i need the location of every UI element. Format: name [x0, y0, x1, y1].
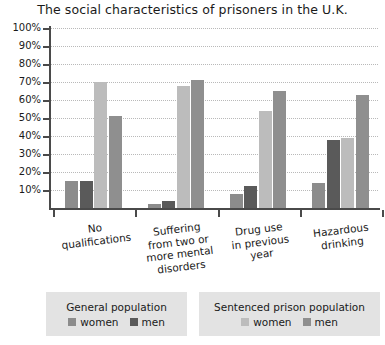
legend-label: women [80, 316, 118, 328]
y-tick-label: 80% [0, 58, 41, 69]
legend-swatch-icon [303, 318, 311, 326]
category-label: Drug use in previous year [215, 218, 305, 266]
bar [94, 82, 107, 208]
y-tick-label: 100% [0, 22, 41, 33]
chart-title: The social characteristics of prisoners … [0, 2, 385, 17]
bar [65, 181, 78, 208]
legend-item-women[interactable]: women [241, 316, 291, 328]
legend-label: women [253, 316, 291, 328]
bar [312, 183, 325, 208]
bar [148, 204, 161, 208]
bar [259, 111, 272, 208]
x-tick-mark [300, 210, 302, 217]
y-tick-label: 30% [0, 148, 41, 159]
x-tick-mark [382, 210, 384, 217]
y-tick-label: 50% [0, 112, 41, 123]
bar [162, 201, 175, 208]
bar [109, 116, 122, 208]
bar [244, 186, 257, 208]
bar [230, 194, 243, 208]
x-axis-line [49, 208, 380, 210]
legend-entries: womenmen [68, 316, 165, 328]
bar [327, 140, 340, 208]
bar [191, 80, 204, 208]
legend-item-men[interactable]: men [303, 316, 338, 328]
y-tick-label: 10% [0, 184, 41, 195]
legend-swatch-icon [68, 318, 76, 326]
y-tick-label: 60% [0, 94, 41, 105]
bars-layer [49, 28, 380, 208]
y-tick-label: 90% [0, 40, 41, 51]
legend-entries: womenmen [241, 316, 338, 328]
x-tick-mark [218, 210, 220, 217]
legend-label: men [142, 316, 165, 328]
legend-group: Sentenced prison populationwomenmen [199, 292, 380, 336]
bar [356, 95, 369, 208]
category-label: Suffering from two or more mental disord… [133, 217, 224, 277]
legend-swatch-icon [130, 318, 138, 326]
legend-swatch-icon [241, 318, 249, 326]
category-label: Hazardous drinking [298, 218, 385, 253]
x-tick-mark [53, 210, 55, 217]
chart-container: The social characteristics of prisoners … [0, 0, 385, 345]
y-tick-label: 70% [0, 76, 41, 87]
legend-item-women[interactable]: women [68, 316, 118, 328]
category-label: No qualifications [51, 217, 139, 252]
bar [80, 181, 93, 208]
y-tick-label: 40% [0, 130, 41, 141]
legend-group: General populationwomenmen [46, 292, 187, 336]
bar [341, 138, 354, 208]
y-tick-label: 20% [0, 166, 41, 177]
legend-group-title: Sentenced prison population [214, 301, 365, 313]
legend-group-title: General population [66, 301, 167, 313]
bar [177, 86, 190, 208]
legend-label: men [315, 316, 338, 328]
bar [273, 91, 286, 208]
legend-item-men[interactable]: men [130, 316, 165, 328]
